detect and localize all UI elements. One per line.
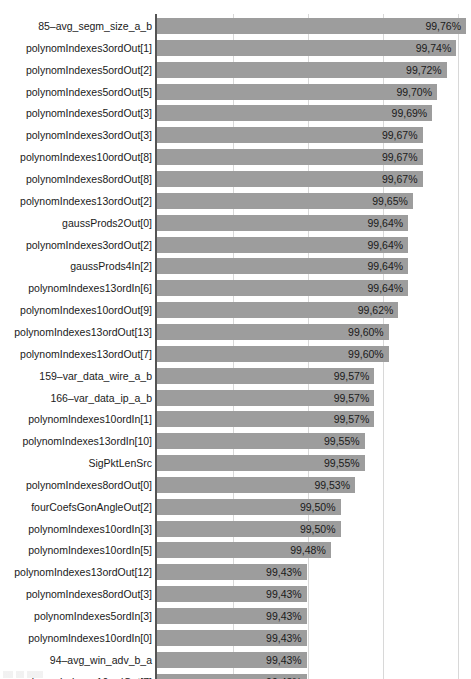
bar-row: 94–avg_win_adv_b_a99,43% xyxy=(0,652,471,668)
bar-row: polynomIndexes10ordIn[0]99,43% xyxy=(0,630,471,646)
bar-value-label: 99,67% xyxy=(377,127,418,143)
bar-row: polynomIndexes5ordOut[5]99,70% xyxy=(0,84,471,100)
bar-value-label: 99,60% xyxy=(343,324,384,340)
category-label: polynomIndexes10ordOut[9] xyxy=(20,302,157,318)
bar-row: polynomIndexes13ordOut[12]99,43% xyxy=(0,564,471,580)
category-label: polynomIndexes10ordIn[3] xyxy=(28,521,157,537)
category-label: polynomIndexes5ordOut[5] xyxy=(26,84,157,100)
bar-row: 85–avg_segm_size_a_b99,76% xyxy=(0,18,471,34)
category-label: polynomIndexes5ordOut[3] xyxy=(26,105,157,121)
category-label: polynomIndexes13ordOut[12] xyxy=(14,564,157,580)
bar-chart: 85–avg_segm_size_a_b99,76%polynomIndexes… xyxy=(0,0,471,679)
bar-value-label: 99,67% xyxy=(377,171,418,187)
bar-value-label: 99,64% xyxy=(362,258,403,274)
bar-row: polynomIndexes10ordIn[3]99,50% xyxy=(0,521,471,537)
bar-value-label: 99,43% xyxy=(261,630,302,646)
bar-row: polynomIndexes10ordIn[1]99,57% xyxy=(0,411,471,427)
category-label: polynomIndexes13ordIn[10] xyxy=(22,433,157,449)
bar-value-label: 99,62% xyxy=(352,302,393,318)
bar-row: polynomIndexes13ordIn[6]99,64% xyxy=(0,280,471,296)
category-label: polynomIndexes8ordOut[0] xyxy=(26,477,157,493)
category-label: polynomIndexes8ordOut[8] xyxy=(26,171,157,187)
bar-row: polynomIndexes13ordOut[2]99,65% xyxy=(0,193,471,209)
category-label: polynomIndexes10ordIn[1] xyxy=(28,411,157,427)
category-label: polynomIndexes13ordIn[6] xyxy=(28,280,157,296)
bar-value-label: 99,64% xyxy=(362,237,403,253)
bar-row: polynomIndexes3ordOut[2]99,64% xyxy=(0,237,471,253)
bar-value-label: 99,43% xyxy=(261,564,302,580)
cropped-footer-artifact xyxy=(3,671,49,678)
bar-value-label: 99,53% xyxy=(309,477,350,493)
bar-row: polynomIndexes10ordIn[5]99,48% xyxy=(0,542,471,558)
bar-row: SigPktLenSrc99,55% xyxy=(0,455,471,471)
category-label: polynomIndexes5ordOut[2] xyxy=(26,62,157,78)
bar-row: polynomIndexes13ordOut[7]99,60% xyxy=(0,346,471,362)
bar-value-label: 99,65% xyxy=(367,193,408,209)
bar-row: polynomIndexes10ordOut[8]99,67% xyxy=(0,149,471,165)
bar-value-label: 99,50% xyxy=(295,499,336,515)
bar-value-label: 99,64% xyxy=(362,280,403,296)
bar-value-label: 99,43% xyxy=(261,608,302,624)
category-label: polynomIndexes3ordOut[3] xyxy=(26,127,157,143)
category-label: SigPktLenSrc xyxy=(88,455,157,471)
bar-row: polynomIndexes13ordIn[10]99,55% xyxy=(0,433,471,449)
bar-row: polynomIndexes3ordOut[1]99,74% xyxy=(0,40,471,56)
bar-value-label: 99,69% xyxy=(386,105,427,121)
bar-value-label: 99,64% xyxy=(362,215,403,231)
category-label: polynomIndexes13ordOut[7] xyxy=(20,346,157,362)
bar-value-label: 99,48% xyxy=(285,542,326,558)
category-label: fourCoefsGonAngleOut[2] xyxy=(31,499,157,515)
category-label: 159–var_data_wire_a_b xyxy=(39,368,157,384)
bar-row: polynomIndexes8ordOut[8]99,67% xyxy=(0,171,471,187)
bar-row: polynomIndexes5ordOut[3]99,69% xyxy=(0,105,471,121)
bar-value-label: 99,57% xyxy=(328,368,369,384)
bar-value-label: 99,72% xyxy=(401,62,442,78)
category-label: gaussProds4In[2] xyxy=(70,258,157,274)
bar-row: gaussProds4In[2]99,64% xyxy=(0,258,471,274)
bar-row: polynomIndexes10ordOut[9]99,62% xyxy=(0,302,471,318)
category-label: polynomIndexes10ordIn[5] xyxy=(28,542,157,558)
bar-row: polynomIndexes3ordOut[3]99,67% xyxy=(0,127,471,143)
category-label: polynomIndexes3ordOut[1] xyxy=(26,40,157,56)
bar-row: gaussProds2Out[0]99,64% xyxy=(0,215,471,231)
bar-row: polynomIndexes5ordIn[3]99,43% xyxy=(0,608,471,624)
bar-row: 159–var_data_wire_a_b99,57% xyxy=(0,368,471,384)
bar-row: 166–var_data_ip_a_b99,57% xyxy=(0,390,471,406)
bar-row: polynomIndexes13ordOut[13]99,60% xyxy=(0,324,471,340)
category-label: 85–avg_segm_size_a_b xyxy=(38,18,157,34)
bar-value-label: 99,76% xyxy=(420,18,461,34)
category-label: polynomIndexes10ordOut[8] xyxy=(20,149,157,165)
bar-value-label: 99,43% xyxy=(261,586,302,602)
category-label: polynomIndexes10ordIn[0] xyxy=(28,630,157,646)
bar-value-label: 99,74% xyxy=(410,40,451,56)
bar-value-label: 99,57% xyxy=(328,390,369,406)
bar-value-label: 99,67% xyxy=(377,149,418,165)
category-label: polynomIndexes13ordOut[2] xyxy=(20,193,157,209)
bar-row: fourCoefsGonAngleOut[2]99,50% xyxy=(0,499,471,515)
bar-value-label: 99,43% xyxy=(261,652,302,668)
category-label: 94–avg_win_adv_b_a xyxy=(50,652,157,668)
category-label: gaussProds2Out[0] xyxy=(62,215,157,231)
bar-value-label: 99,70% xyxy=(391,84,432,100)
bar-value-label: 99,43% xyxy=(261,674,302,679)
category-label: polynomIndexes8ordOut[3] xyxy=(26,586,157,602)
bar-value-label: 99,60% xyxy=(343,346,384,362)
bar-row: polynomIndexes10ordOut[7]99,43% xyxy=(0,674,471,679)
bar-value-label: 99,55% xyxy=(319,455,360,471)
bar-value-label: 99,50% xyxy=(295,521,336,537)
category-label: polynomIndexes3ordOut[2] xyxy=(26,237,157,253)
category-label: 166–var_data_ip_a_b xyxy=(50,390,157,406)
bar-value-label: 99,57% xyxy=(328,411,369,427)
bar-row: polynomIndexes5ordOut[2]99,72% xyxy=(0,62,471,78)
bar-row: polynomIndexes8ordOut[0]99,53% xyxy=(0,477,471,493)
category-label: polynomIndexes5ordIn[3] xyxy=(34,608,157,624)
bar-value-label: 99,55% xyxy=(319,433,360,449)
category-label: polynomIndexes13ordOut[13] xyxy=(14,324,157,340)
bar-row: polynomIndexes8ordOut[3]99,43% xyxy=(0,586,471,602)
